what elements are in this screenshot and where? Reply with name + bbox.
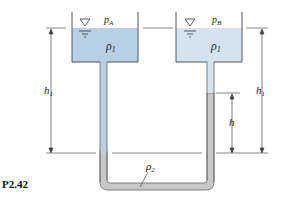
manometer-diagram: pA ρ1 pB ρ1 ρ2 h1 h1 h	[0, 0, 281, 198]
figure-caption: P2.42	[2, 178, 28, 190]
left-tube-fluid1	[100, 62, 107, 153]
pA-label: pA	[103, 14, 114, 27]
pB-label: pB	[211, 14, 222, 27]
right-h1-label: h1	[256, 84, 265, 98]
right-tube-fluid1	[207, 62, 214, 93]
h-label: h	[229, 116, 235, 128]
right-tank	[176, 12, 242, 62]
rho2-label: ρ2	[145, 160, 155, 174]
left-h1-label: h1	[44, 84, 53, 98]
u-tube	[100, 93, 214, 190]
